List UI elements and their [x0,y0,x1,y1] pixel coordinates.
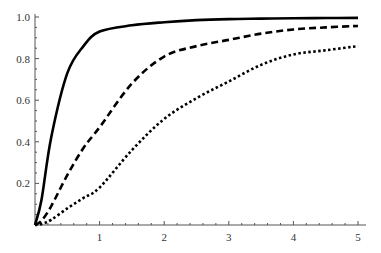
x-tick-label: 1 [97,231,103,243]
y-tick-label: 1.0 [16,11,30,23]
curve-solid [35,18,358,225]
line-chart: 123450.20.40.60.81.0 [0,0,381,253]
y-tick-label: 0.2 [16,177,30,189]
curve-dashed [35,26,358,225]
x-tick-label: 5 [355,231,361,243]
axes: 123450.20.40.60.81.0 [16,11,366,243]
curve-dotted [35,46,358,225]
curves [35,18,358,225]
x-tick-label: 4 [291,231,297,243]
y-tick-label: 0.8 [16,53,30,65]
x-tick-label: 3 [226,231,232,243]
y-tick-label: 0.4 [16,136,30,148]
x-tick-label: 2 [161,231,167,243]
y-tick-label: 0.6 [16,94,30,106]
